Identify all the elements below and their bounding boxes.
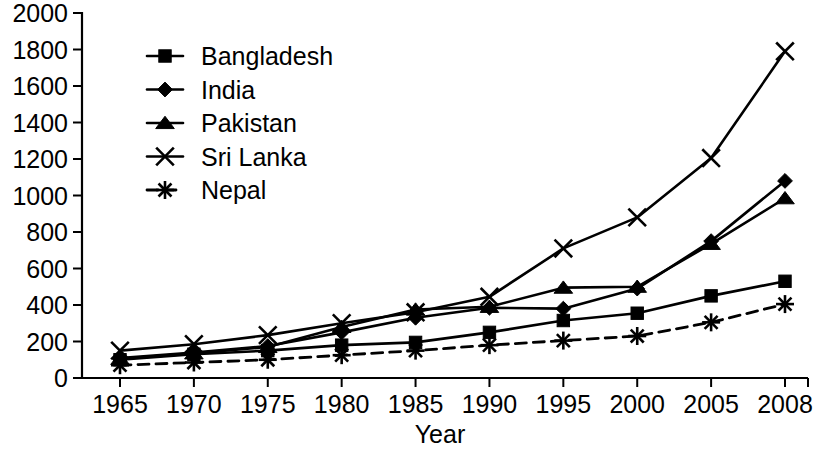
legend-label: Sri Lanka [201, 143, 307, 171]
y-tick-label: 800 [26, 218, 68, 246]
x-tick-label: 2000 [609, 390, 665, 418]
marker-asterisk [776, 295, 794, 313]
series-path [120, 181, 785, 358]
legend-label: Pakistan [201, 109, 297, 137]
y-tick-label: 1000 [12, 182, 68, 210]
legend-item-india[interactable]: India [147, 76, 255, 104]
marker-asterisk [407, 342, 425, 360]
marker-cross [702, 149, 720, 167]
y-tick-label: 200 [26, 328, 68, 356]
x-tick-label: 2008 [757, 390, 813, 418]
legend-item-sri-lanka[interactable]: Sri Lanka [147, 143, 307, 171]
x-tick-label: 1970 [166, 390, 222, 418]
legend-item-nepal[interactable]: Nepal [147, 176, 266, 204]
x-tick-label: 1965 [92, 390, 148, 418]
y-tick-label: 600 [26, 255, 68, 283]
x-axis-title: Year [415, 420, 466, 448]
y-tick-label: 0 [54, 364, 68, 392]
marker-asterisk [628, 327, 646, 345]
series-path [120, 198, 785, 359]
x-tick-label: 1975 [240, 390, 296, 418]
marker-asterisk [111, 356, 129, 374]
y-tick-label: 400 [26, 291, 68, 319]
x-tick-label: 2005 [683, 390, 739, 418]
marker-asterisk [259, 351, 277, 369]
legend-label: Bangladesh [201, 42, 333, 70]
y-axis: 0200400600800100012001400160018002000 [12, 0, 82, 392]
x-tick-label: 1995 [536, 390, 592, 418]
line-chart: 0200400600800100012001400160018002000 19… [0, 0, 817, 450]
y-tick-label: 1400 [12, 109, 68, 137]
y-tick-label: 2000 [12, 0, 68, 27]
marker-square [159, 50, 171, 62]
x-axis: 1965197019751980198519901995200020052008 [82, 378, 813, 418]
chart-canvas: 0200400600800100012001400160018002000 19… [0, 0, 817, 450]
y-tick-label: 1200 [12, 145, 68, 173]
marker-asterisk [702, 313, 720, 331]
legend-item-bangladesh[interactable]: Bangladesh [147, 42, 333, 70]
x-tick-label: 1990 [462, 390, 518, 418]
marker-asterisk [185, 353, 203, 371]
marker-cross [555, 240, 573, 258]
x-tick-label: 1985 [388, 390, 444, 418]
legend-label: India [201, 76, 255, 104]
chart-legend: BangladeshIndiaPakistanSri LankaNepal [147, 42, 333, 204]
x-tick-label: 1980 [314, 390, 370, 418]
marker-asterisk [554, 332, 572, 350]
legend-label: Nepal [201, 176, 266, 204]
marker-asterisk [333, 346, 351, 364]
marker-cross [776, 43, 794, 61]
y-tick-label: 1600 [12, 72, 68, 100]
marker-triangle [776, 191, 795, 203]
marker-asterisk [156, 181, 174, 199]
legend-item-pakistan[interactable]: Pakistan [147, 109, 297, 137]
y-tick-label: 1800 [12, 36, 68, 64]
marker-square [631, 307, 643, 319]
marker-square [705, 290, 717, 302]
marker-cross [628, 209, 646, 227]
marker-asterisk [480, 336, 498, 354]
marker-diamond [158, 82, 173, 97]
marker-square [779, 275, 791, 287]
